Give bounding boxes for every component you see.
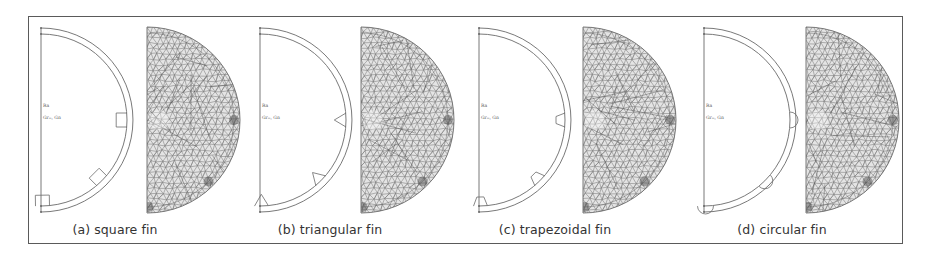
caption-b: (b) triangular fin (278, 222, 382, 237)
svg-text:Ra: Ra (706, 103, 712, 108)
caption-c: (c) trapezoidal fin (499, 222, 611, 237)
mesh-d (779, 23, 917, 216)
caption-a: (a) square fin (72, 222, 157, 237)
caption-d: (d) circular fin (737, 222, 826, 237)
svg-text:Grₘ, Gn: Grₘ, Gn (706, 115, 724, 120)
geometry-outline-d: RaGrₘ, Gn (698, 27, 798, 214)
